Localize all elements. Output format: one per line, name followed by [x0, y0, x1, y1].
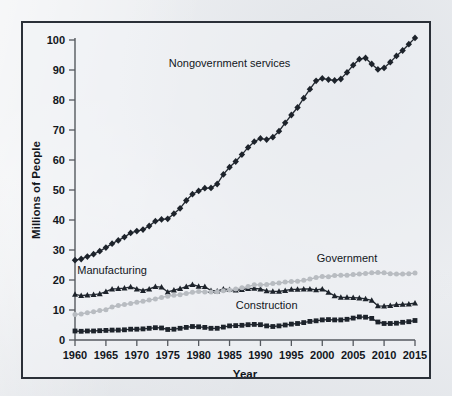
data-point-square: [326, 317, 331, 322]
data-point-triangle: [128, 284, 134, 290]
data-point-square: [172, 327, 177, 332]
y-tick-label: 80: [53, 94, 65, 106]
data-point-square: [308, 319, 313, 324]
data-point-circle: [97, 308, 102, 313]
y-tick-label: 10: [53, 304, 65, 316]
x-tick-label: 1995: [279, 349, 303, 361]
x-axis-title: Year: [233, 368, 258, 377]
series-line-0: [75, 38, 415, 260]
data-point-square: [85, 329, 90, 334]
data-point-circle: [233, 287, 238, 292]
data-point-circle: [400, 272, 405, 277]
data-point-circle: [338, 273, 343, 278]
data-point-diamond: [97, 248, 103, 255]
data-point-square: [382, 321, 387, 326]
data-point-circle: [295, 279, 300, 284]
data-point-square: [246, 322, 251, 327]
data-point-circle: [79, 311, 84, 316]
data-point-diamond: [134, 228, 140, 235]
data-point-circle: [246, 284, 251, 289]
data-point-square: [73, 329, 78, 334]
data-point-circle: [258, 282, 263, 287]
y-tick-label: 60: [53, 154, 65, 166]
y-tick-label: 20: [53, 274, 65, 286]
data-point-triangle: [332, 293, 338, 299]
data-point-square: [233, 323, 238, 328]
data-point-diamond: [331, 77, 337, 84]
data-point-diamond: [115, 237, 121, 244]
data-point-circle: [73, 312, 78, 317]
data-point-circle: [382, 270, 387, 275]
data-point-circle: [326, 274, 331, 279]
data-point-triangle: [72, 291, 78, 297]
data-point-square: [289, 322, 294, 327]
data-point-diamond: [72, 257, 78, 264]
data-point-square: [320, 318, 325, 323]
y-tick-label: 0: [59, 334, 65, 346]
x-tick-label: 2010: [372, 349, 396, 361]
x-tick-label: 2015: [403, 349, 427, 361]
data-point-square: [79, 329, 84, 334]
data-point-diamond: [195, 188, 201, 195]
data-point-square: [363, 315, 368, 320]
data-point-square: [270, 324, 275, 329]
data-point-circle: [375, 270, 380, 275]
data-point-square: [190, 324, 195, 329]
data-point-circle: [314, 275, 319, 280]
data-point-circle: [103, 307, 108, 312]
data-point-circle: [351, 272, 356, 277]
series-annotation-0: Nongovernment services: [169, 57, 291, 69]
y-axis-title: Millions of People: [30, 141, 42, 239]
data-point-square: [258, 322, 263, 327]
data-point-square: [394, 321, 399, 326]
data-point-circle: [116, 303, 121, 308]
data-point-circle: [128, 301, 133, 306]
data-point-circle: [357, 272, 362, 277]
data-point-circle: [215, 289, 220, 294]
x-tick-label: 1980: [186, 349, 210, 361]
data-point-square: [406, 319, 411, 324]
data-point-square: [178, 326, 183, 331]
data-point-square: [351, 316, 356, 321]
data-point-square: [295, 321, 300, 326]
data-point-square: [110, 328, 115, 333]
data-point-square: [357, 315, 362, 320]
data-point-square: [209, 326, 214, 331]
data-point-circle: [394, 272, 399, 277]
data-point-circle: [289, 279, 294, 284]
data-point-diamond: [103, 244, 109, 251]
data-point-square: [227, 324, 232, 329]
data-point-circle: [406, 271, 411, 276]
data-point-triangle: [189, 281, 195, 287]
data-point-square: [301, 320, 306, 325]
data-point-diamond: [325, 76, 331, 83]
data-point-square: [97, 328, 102, 333]
data-point-circle: [141, 299, 146, 304]
x-tick-label: 1970: [125, 349, 149, 361]
data-point-circle: [388, 271, 393, 276]
data-point-circle: [190, 290, 195, 295]
data-point-circle: [165, 294, 170, 299]
data-point-circle: [345, 273, 350, 278]
data-point-square: [215, 326, 220, 331]
data-point-triangle: [325, 289, 331, 295]
data-point-square: [165, 327, 170, 332]
data-point-square: [91, 329, 96, 334]
data-point-diamond: [208, 185, 214, 192]
data-point-circle: [369, 270, 374, 275]
figure-frame: 0102030405060708090100196019651970197519…: [21, 21, 431, 379]
data-point-circle: [110, 305, 115, 310]
y-tick-label: 100: [47, 34, 65, 46]
y-tick-label: 90: [53, 64, 65, 76]
data-point-square: [369, 316, 374, 321]
data-point-square: [400, 320, 405, 325]
data-point-circle: [332, 273, 337, 278]
data-point-square: [252, 322, 257, 327]
data-point-diamond: [78, 256, 84, 263]
data-point-circle: [363, 271, 368, 276]
data-point-circle: [196, 289, 201, 294]
data-point-circle: [252, 282, 257, 287]
data-point-square: [104, 328, 109, 333]
data-point-square: [240, 323, 245, 328]
data-point-diamond: [319, 75, 325, 82]
